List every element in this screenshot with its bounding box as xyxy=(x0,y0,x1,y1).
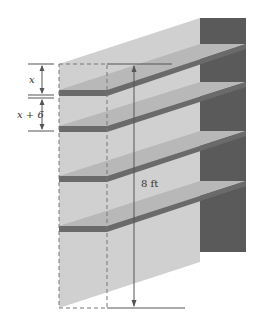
bookshelf-diagram: 8 ft x x + 6 xyxy=(0,0,262,326)
arrow-down-icon xyxy=(132,300,137,307)
second-gap-label: x + 6 xyxy=(17,109,44,120)
total-height-label: 8 ft xyxy=(141,178,158,189)
top-gap-label: x xyxy=(29,74,35,85)
